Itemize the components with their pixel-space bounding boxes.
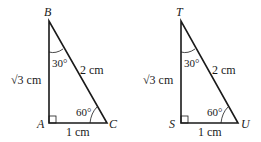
vertex-s-label: S [169,118,175,130]
angle-arc-b [49,49,63,53]
unit: cm [159,73,174,87]
unit: cm [27,73,42,87]
angle-t-label: 30° [184,57,199,69]
angle-c-label: 60° [76,106,91,118]
base-su-label: 1 cm [198,126,222,138]
vertex-b-label: B [44,6,51,18]
vertex-c-label: C [109,118,117,130]
right-angle-marker [181,116,188,123]
vertex-a-label: A [37,118,44,130]
hypotenuse-bc-label: 2 cm [80,64,104,76]
base-ac-label: 1 cm [66,126,90,138]
hypotenuse-tu-label: 2 cm [212,64,236,76]
radicand: 3 [150,73,156,87]
radical-sign: √ [11,73,18,87]
angle-b-label: 30° [52,57,67,69]
right-angle-marker [49,116,56,123]
side-ts-label: √3 cm [143,74,173,86]
radicand: 3 [18,73,24,87]
angle-arc-t [181,49,195,53]
angle-u-label: 60° [207,106,222,118]
vertex-t-label: T [176,6,183,18]
side-ab-label: √3 cm [11,74,41,86]
vertex-u-label: U [241,118,250,130]
radical-sign: √ [143,73,150,87]
